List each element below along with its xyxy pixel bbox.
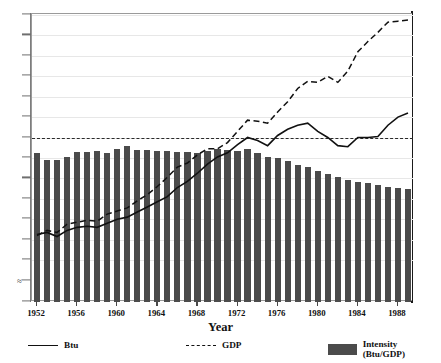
legend-item-btu: Btu <box>28 340 78 350</box>
y-tick-mark <box>22 75 31 76</box>
x-tick-label: 1980 <box>308 308 326 318</box>
x-tick-mark <box>357 301 358 306</box>
x-tick-mark <box>76 301 77 306</box>
y-tick-mark <box>22 13 31 14</box>
solid-line-icon <box>28 345 58 346</box>
x-tick-mark <box>397 301 398 306</box>
axis-break-symbol: ≈ <box>17 276 22 286</box>
x-tick-mark <box>196 301 197 306</box>
y-tick-mark <box>22 34 31 35</box>
legend-item-gdp: GDP <box>186 340 241 350</box>
y-tick-mark <box>22 197 31 198</box>
x-tick-mark <box>36 301 37 306</box>
energy-intensity-chart: 0.00.40.50.60.70.80.91.01.11.21.31.41.51… <box>0 0 441 363</box>
chart-legend: Btu GDP Intensity (Btu/GDP) <box>0 339 441 357</box>
gdp-line <box>37 20 408 235</box>
x-tick-label: 1952 <box>27 308 45 318</box>
y-tick-mark <box>22 136 31 137</box>
plot-area <box>31 13 412 301</box>
dashed-line-icon <box>186 345 216 346</box>
x-tick-mark <box>237 301 238 306</box>
x-tick-mark <box>317 301 318 306</box>
chart-top-text <box>0 0 441 6</box>
filled-square-icon <box>328 344 357 355</box>
y-tick-mark <box>22 218 31 219</box>
y-tick-mark <box>22 54 31 55</box>
x-tick-label: 1976 <box>268 308 286 318</box>
x-tick-label: 1964 <box>148 308 166 318</box>
legend-label-btu: Btu <box>64 340 78 350</box>
y-tick-mark <box>22 279 31 280</box>
y-tick-mark <box>22 300 31 301</box>
x-tick-mark <box>116 301 117 306</box>
x-tick-mark <box>277 301 278 306</box>
y-tick-mark <box>22 258 31 259</box>
btu-line <box>37 113 408 237</box>
y-tick-mark <box>22 95 31 96</box>
y-tick-mark <box>22 177 31 178</box>
legend-label-gdp: GDP <box>222 340 241 350</box>
x-tick-label: 1988 <box>388 308 406 318</box>
legend-label-intensity: Intensity (Btu/GDP) <box>363 339 441 359</box>
y-tick-mark <box>22 238 31 239</box>
x-tick-label: 1972 <box>228 308 246 318</box>
x-tick-label: 1956 <box>67 308 85 318</box>
x-tick-label: 1984 <box>348 308 366 318</box>
legend-item-intensity: Intensity (Btu/GDP) <box>328 339 441 359</box>
y-tick-mark <box>22 115 31 116</box>
x-tick-label: 1968 <box>188 308 206 318</box>
x-tick-mark <box>156 301 157 306</box>
x-tick-label: 1960 <box>107 308 125 318</box>
x-axis-title: Year <box>0 320 441 335</box>
y-tick-mark <box>22 156 31 157</box>
line-series-layer <box>32 14 413 302</box>
